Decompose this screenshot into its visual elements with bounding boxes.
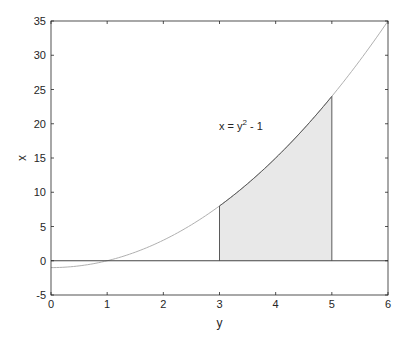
x-tick-label: 4 — [273, 298, 279, 310]
curve-equation-annotation: x = y2 - 1 — [219, 118, 263, 132]
x-axis-label: y — [217, 316, 223, 330]
chart-figure: 0123456-505101520253035 y x x = y2 - 1 — [0, 0, 411, 342]
y-tick-label: 25 — [34, 84, 46, 96]
y-tick-label: 30 — [34, 49, 46, 61]
x-tick-label: 3 — [216, 298, 222, 310]
x-tick-label: 0 — [48, 298, 54, 310]
plot-area — [51, 21, 388, 268]
x-tick-label: 6 — [385, 298, 391, 310]
y-tick-label: -5 — [36, 289, 46, 301]
axis-ticks: 0123456-505101520253035 — [34, 15, 391, 310]
x-tick-label: 2 — [160, 298, 166, 310]
y-tick-label: 15 — [34, 152, 46, 164]
x-tick-label: 1 — [104, 298, 110, 310]
y-tick-label: 20 — [34, 118, 46, 130]
y-tick-label: 10 — [34, 186, 46, 198]
y-tick-label: 35 — [34, 15, 46, 27]
y-tick-label: 0 — [40, 255, 46, 267]
y-axis-label: x — [15, 155, 29, 161]
x-tick-label: 5 — [329, 298, 335, 310]
y-tick-label: 5 — [40, 221, 46, 233]
